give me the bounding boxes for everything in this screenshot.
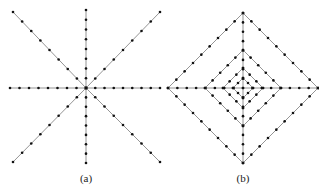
sample-point: [192, 112, 195, 115]
sample-point: [242, 21, 245, 24]
sample-point: [85, 143, 88, 146]
sample-point: [94, 77, 97, 80]
sample-point: [66, 87, 69, 90]
sample-point: [76, 77, 79, 80]
diamond-edge: [168, 13, 243, 88]
sample-point: [228, 93, 231, 96]
sample-point: [258, 145, 261, 148]
sample-point: [140, 87, 143, 90]
sample-point: [122, 124, 125, 127]
sample-point: [131, 39, 134, 42]
sample-point: [66, 68, 69, 71]
sample-point: [235, 100, 238, 103]
sample-point: [39, 39, 42, 42]
sample-point: [140, 142, 143, 145]
sample-point: [307, 87, 310, 90]
sample-point: [235, 73, 238, 76]
sample-point: [103, 105, 106, 108]
sample-point: [159, 87, 162, 90]
sample-point: [195, 87, 198, 90]
sample-point: [37, 87, 40, 90]
sample-point: [275, 128, 278, 131]
sample-point: [262, 87, 265, 90]
sample-point: [183, 103, 186, 106]
sample-point: [85, 38, 88, 41]
figure-canvas: [0, 0, 319, 190]
sample-point: [30, 142, 33, 145]
sample-point: [272, 79, 275, 82]
diamond-edge: [243, 88, 318, 163]
sample-point: [225, 145, 228, 148]
sample-point: [140, 30, 143, 33]
diamond-edge: [243, 88, 263, 108]
sample-point: [75, 87, 78, 90]
sample-point: [248, 73, 251, 76]
sample-point: [57, 58, 60, 61]
sample-point: [298, 87, 301, 90]
sample-point: [167, 87, 170, 90]
sample-point: [225, 28, 228, 31]
sample-point: [12, 11, 15, 14]
sample-point: [250, 153, 253, 156]
sample-point: [242, 77, 245, 80]
sample-point: [21, 151, 24, 154]
sample-point: [217, 137, 220, 140]
sample-point: [265, 72, 268, 75]
sample-point: [219, 72, 222, 75]
sample-point: [280, 87, 283, 90]
sample-point: [267, 137, 270, 140]
sample-point: [85, 57, 88, 60]
sample-point: [248, 100, 251, 103]
sample-point: [242, 152, 245, 155]
sample-point: [94, 96, 97, 99]
sample-point: [249, 56, 252, 59]
caption-b: (b): [228, 172, 258, 184]
sample-point: [185, 87, 188, 90]
sample-point: [272, 94, 275, 97]
sample-point: [250, 20, 253, 23]
diamond-edge: [223, 68, 243, 88]
sample-point: [85, 105, 88, 108]
sample-point: [270, 87, 273, 90]
sample-point: [85, 96, 88, 99]
sample-point: [211, 79, 214, 82]
sample-point: [85, 48, 88, 51]
sample-point: [76, 96, 79, 99]
sample-point: [242, 97, 245, 100]
sample-point: [208, 45, 211, 48]
sample-point: [192, 62, 195, 65]
diamond-edge: [223, 88, 243, 108]
sample-point: [255, 80, 258, 83]
sample-point: [308, 95, 311, 98]
sample-point: [131, 87, 134, 90]
sample-point: [85, 18, 88, 21]
sample-point: [242, 30, 245, 33]
caption-a: (a): [71, 172, 101, 184]
sample-point: [112, 58, 115, 61]
sample-point: [217, 37, 220, 40]
sample-point: [211, 94, 214, 97]
sample-point: [283, 120, 286, 123]
sample-point: [47, 87, 50, 90]
sample-point: [149, 87, 152, 90]
sample-point: [219, 102, 222, 105]
sample-point: [242, 143, 245, 146]
sample-point: [222, 87, 225, 90]
sample-point: [21, 20, 24, 23]
sample-point: [200, 120, 203, 123]
sample-point: [85, 77, 88, 80]
sample-point: [208, 128, 211, 131]
sample-point: [200, 53, 203, 56]
sample-point: [56, 87, 59, 90]
sample-point: [233, 20, 236, 23]
sample-point: [257, 64, 260, 67]
sample-point: [48, 124, 51, 127]
sample-point: [214, 87, 217, 90]
sample-point: [292, 62, 295, 65]
sample-point: [66, 105, 69, 108]
sample-point: [85, 87, 88, 90]
sample-point: [85, 9, 88, 12]
sample-point: [48, 49, 51, 52]
sample-point: [249, 117, 252, 120]
sample-point: [122, 87, 125, 90]
